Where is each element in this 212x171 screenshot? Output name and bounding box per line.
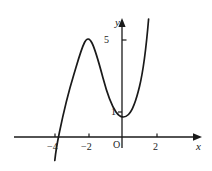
graph-figure: y x 5 1 −4 −2 2 O [0, 0, 212, 171]
origin-label: O [113, 140, 120, 150]
x-axis-label: x [196, 141, 201, 152]
y-tick-label-5: 5 [104, 35, 109, 45]
x-tick-label-2: 2 [153, 142, 158, 152]
y-axis-label: y [115, 17, 120, 28]
x-tick-label--4: −4 [47, 142, 58, 152]
x-tick-label--2: −2 [81, 142, 92, 152]
y-tick-label-1: 1 [111, 107, 116, 117]
cubic-curve [55, 19, 149, 161]
plot-canvas [0, 0, 212, 171]
